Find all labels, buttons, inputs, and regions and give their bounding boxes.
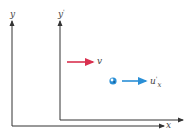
s-prime-y-prime-mark: ' [63,8,65,15]
particle-icon [109,77,116,84]
frame-s-axes [12,21,164,126]
relativity-diagram: y y' v u'x x [0,0,185,137]
particle-velocity-subscript: x [157,81,161,89]
s-x-axis-label: x [166,121,171,130]
diagram-canvas [0,0,185,137]
frame-velocity-label: v [97,57,102,66]
s-prime-y-axis-label: y' [58,10,65,19]
particle-velocity-letter: u [150,76,156,86]
s-y-axis-label: y [10,10,15,19]
frame-s-prime-axes [60,21,183,120]
particle-velocity-label: u'x [150,77,161,86]
